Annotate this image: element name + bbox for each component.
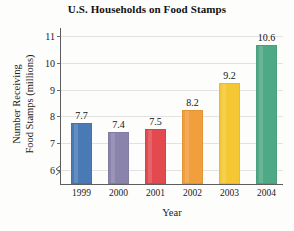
- bar-value-label: 7.4: [112, 119, 125, 130]
- bar-rect: [71, 123, 92, 184]
- bar[interactable]: 10.62004: [256, 45, 277, 184]
- x-tick-label: 2000: [109, 188, 128, 198]
- y-axis-title-line-1: Number Receiving: [11, 54, 24, 153]
- y-tick-mark: [57, 116, 61, 117]
- gridline: [61, 170, 283, 171]
- bar[interactable]: 9.22003: [219, 83, 240, 184]
- gridline: [61, 63, 283, 64]
- gridline: [61, 143, 283, 144]
- y-tick-label: 10: [45, 57, 55, 68]
- y-axis-line: [60, 28, 61, 185]
- gridline: [61, 36, 283, 37]
- chart-figure: U.S. Households on Food Stamps Number Re…: [0, 0, 294, 231]
- bar[interactable]: 8.22002: [182, 110, 203, 184]
- y-tick-label: 7: [50, 138, 55, 149]
- y-axis-title-line-2: Food Stamps (millions): [23, 54, 36, 153]
- y-tick-mark: [57, 90, 61, 91]
- y-tick-mark: [57, 63, 61, 64]
- x-tick-label: 2004: [257, 188, 276, 198]
- bar-rect: [256, 45, 277, 184]
- y-tick-label: 11: [45, 30, 55, 41]
- bar-value-label: 7.7: [75, 110, 88, 121]
- plot-area: 67891011 7.719997.420007.520018.220029.2…: [61, 29, 283, 185]
- gridline: [61, 90, 283, 91]
- bar-rect: [145, 129, 166, 184]
- bar[interactable]: 7.52001: [145, 129, 166, 184]
- x-axis-title: Year: [61, 207, 283, 218]
- chart-title: U.S. Households on Food Stamps: [0, 3, 294, 15]
- bar-rect: [182, 110, 203, 184]
- bar-value-label: 7.5: [149, 116, 162, 127]
- bar[interactable]: 7.42000: [108, 132, 129, 184]
- x-axis-line: [60, 184, 283, 185]
- bar[interactable]: 7.71999: [71, 123, 92, 184]
- y-axis-title: Number Receiving Food Stamps (millions): [8, 26, 38, 181]
- x-tick-label: 2003: [220, 188, 239, 198]
- y-tick-label: 9: [50, 84, 55, 95]
- axis-break-icon: [55, 165, 66, 176]
- bar-value-label: 8.2: [186, 97, 199, 108]
- bar-value-label: 9.2: [223, 70, 236, 81]
- y-tick-label: 8: [50, 111, 55, 122]
- bar-rect: [219, 83, 240, 184]
- x-tick-label: 2001: [146, 188, 165, 198]
- bar-rect: [108, 132, 129, 184]
- bar-value-label: 10.6: [258, 32, 276, 43]
- gridline: [61, 116, 283, 117]
- y-tick-mark: [57, 143, 61, 144]
- x-tick-label: 2002: [183, 188, 202, 198]
- x-tick-label: 1999: [72, 188, 91, 198]
- y-tick-mark: [57, 36, 61, 37]
